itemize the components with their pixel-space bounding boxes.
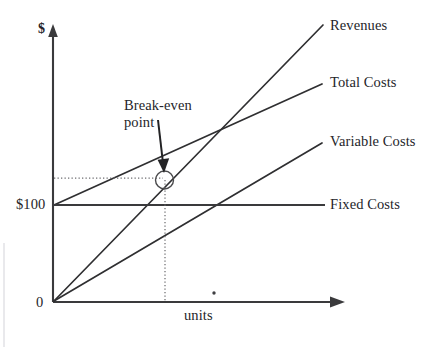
series-label-revenues: Revenues <box>330 17 387 33</box>
breakeven-callout-line2: point <box>124 114 154 131</box>
x-axis-label: units <box>184 307 213 323</box>
series-label-fixed-costs: Fixed Costs <box>330 196 400 212</box>
page-edge-artifact <box>3 243 5 347</box>
y-axis-label: $ <box>38 21 45 37</box>
breakeven-chart-figure: $ 0 $100 units Break-even point Revenues… <box>0 0 426 347</box>
y-tick-label-100: $100 <box>16 196 45 212</box>
breakeven-callout-line1: Break-even <box>124 97 192 114</box>
chart-canvas <box>0 0 426 347</box>
series-label-total-costs: Total Costs <box>330 74 397 90</box>
axis-dot-mark <box>212 291 215 294</box>
origin-label: 0 <box>36 294 43 310</box>
series-label-variable-costs: Variable Costs <box>330 133 416 149</box>
